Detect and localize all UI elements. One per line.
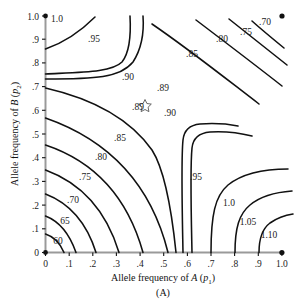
contour-label-0: 1.0 bbox=[51, 14, 63, 24]
y-tick-5: .5 bbox=[32, 130, 39, 140]
x-tick-0: 0 bbox=[43, 259, 48, 269]
contour-label-2: .90 bbox=[122, 72, 134, 82]
y-axis-title-prefix: Allele frequency of bbox=[9, 106, 20, 186]
y-tick-9: .9 bbox=[32, 35, 39, 45]
contour-figure: 0 .1 .2 .3 .4 .5 .6 .7 .8 .9 1.0 0 .1 .2… bbox=[0, 0, 302, 302]
contour-label-9: .70 bbox=[259, 17, 271, 27]
x-tick-9: .9 bbox=[255, 259, 262, 269]
contour-label-1: .95 bbox=[88, 34, 100, 44]
y-tick-3: .3 bbox=[32, 177, 39, 187]
x-tick-5: .5 bbox=[160, 259, 167, 269]
y-tick-4: .4 bbox=[32, 153, 39, 163]
x-tick-8: .8 bbox=[231, 259, 238, 269]
contour-label-13: .70 bbox=[67, 195, 79, 205]
corner-dot-top-right bbox=[279, 13, 284, 18]
y-tick-2: .2 bbox=[32, 201, 39, 211]
x-tick-6: .6 bbox=[184, 259, 191, 269]
x-tick-2: .2 bbox=[89, 259, 96, 269]
contour-0.80 bbox=[196, 20, 282, 86]
y-tick-6: .6 bbox=[32, 106, 39, 116]
x-axis-title-prefix: Allele frequency of bbox=[111, 272, 191, 283]
x-tick-1: .1 bbox=[66, 259, 73, 269]
contour-label-14: 65 bbox=[60, 216, 70, 226]
contour-label-19: 1.10 bbox=[261, 230, 278, 240]
x-tick-10: 1.0 bbox=[276, 259, 288, 269]
contour-label-5: .90 bbox=[164, 108, 176, 118]
corner-dot-origin bbox=[43, 250, 48, 255]
contour-0.85 bbox=[46, 118, 169, 253]
contour-label-10: .85 bbox=[114, 133, 126, 143]
contour-label-18: 1.05 bbox=[240, 217, 257, 227]
contour-label-8: .75 bbox=[240, 27, 252, 37]
contour-label-12: .75 bbox=[79, 172, 91, 182]
x-tick-7: .7 bbox=[207, 259, 214, 269]
corner-dot-top-left bbox=[43, 14, 48, 19]
contour-label-16: .95 bbox=[190, 172, 202, 182]
y-tick-0: 0 bbox=[34, 248, 39, 258]
x-tick-3: .3 bbox=[113, 259, 120, 269]
contour-label-11: .80 bbox=[95, 152, 107, 162]
y-tick-1: .1 bbox=[32, 224, 39, 234]
contour-plot-svg: 0 .1 .2 .3 .4 .5 .6 .7 .8 .9 1.0 0 .1 .2… bbox=[0, 0, 302, 302]
y-axis-tick-labels: 0 .1 .2 .3 .4 .5 .6 .7 .8 .9 1.0 bbox=[27, 12, 39, 259]
contour-label-6: .85 bbox=[186, 49, 198, 59]
x-axis-tick-labels: 0 .1 .2 .3 .4 .5 .6 .7 .8 .9 1.0 bbox=[43, 259, 288, 269]
panel-label: (A) bbox=[156, 287, 170, 299]
corner-dot-bottom-right bbox=[279, 250, 284, 255]
x-tick-4: .4 bbox=[137, 259, 144, 269]
y-tick-7: .7 bbox=[32, 82, 39, 92]
contour-label-17: 1.0 bbox=[223, 198, 235, 208]
contour-label-7: .80 bbox=[216, 34, 228, 44]
contour-label-3: .89 bbox=[157, 83, 169, 93]
contour-label-4: .89 bbox=[132, 102, 144, 112]
y-tick-10: 1.0 bbox=[27, 12, 39, 22]
y-tick-8: .8 bbox=[32, 58, 39, 68]
x-axis-title: Allele frequency of A (p1) bbox=[111, 272, 215, 286]
contour-label-15: 60 bbox=[53, 236, 63, 246]
y-axis-title: Allele frequency of B (p2) bbox=[9, 82, 23, 186]
contour-0.89-lower bbox=[46, 88, 177, 253]
